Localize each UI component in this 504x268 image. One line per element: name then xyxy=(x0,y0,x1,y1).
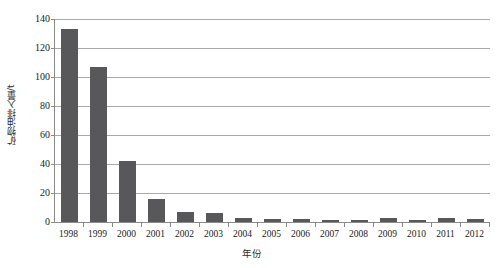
bar-slot xyxy=(84,19,113,222)
bar-slot xyxy=(403,19,432,222)
bar-chart-figure: 矿物油排入量/t 020406080100120140 199819992000… xyxy=(0,0,504,268)
bar xyxy=(264,219,281,222)
x-tick-mark xyxy=(286,223,287,227)
x-tick-mark xyxy=(83,223,84,227)
x-tick-mark xyxy=(199,223,200,227)
x-tick-mark xyxy=(344,223,345,227)
x-tick-mark xyxy=(373,223,374,227)
x-tick-label: 2004 xyxy=(229,228,257,240)
y-tick-label: 20 xyxy=(20,188,50,198)
bar-slot xyxy=(200,19,229,222)
x-tick-mark xyxy=(170,223,171,227)
x-tick-label: 1998 xyxy=(55,228,83,240)
x-tick-mark xyxy=(489,223,490,227)
bar xyxy=(380,218,397,222)
y-axis-tick-labels: 020406080100120140 xyxy=(18,0,50,268)
x-tick-mark xyxy=(402,223,403,227)
x-tick-mark xyxy=(112,223,113,227)
bar xyxy=(293,219,310,222)
bar xyxy=(235,218,252,222)
bar-slot xyxy=(113,19,142,222)
x-tick-label: 2003 xyxy=(200,228,228,240)
x-tick-mark xyxy=(460,223,461,227)
bar-slot xyxy=(345,19,374,222)
bar-slot xyxy=(316,19,345,222)
x-tick-label: 2000 xyxy=(113,228,141,240)
plot-area xyxy=(54,19,490,223)
y-tick-label: 140 xyxy=(20,14,50,24)
x-tick-label: 2010 xyxy=(403,228,431,240)
y-tick-label: 100 xyxy=(20,72,50,82)
bar xyxy=(322,220,339,222)
x-tick-mark xyxy=(315,223,316,227)
bar xyxy=(119,161,136,222)
bar xyxy=(438,218,455,222)
bar-slot xyxy=(55,19,84,222)
x-tick-label: 2009 xyxy=(374,228,402,240)
bar-slot xyxy=(229,19,258,222)
x-tick-mark xyxy=(257,223,258,227)
bar xyxy=(177,212,194,222)
x-tick-label: 2011 xyxy=(432,228,460,240)
x-tick-label: 2005 xyxy=(258,228,286,240)
bar-slot xyxy=(287,19,316,222)
bar-slot xyxy=(258,19,287,222)
x-axis-tick-labels: 1998199920002001200220032004200520062007… xyxy=(54,228,489,242)
bar xyxy=(467,219,484,222)
x-tick-label: 2002 xyxy=(171,228,199,240)
bar-slot xyxy=(142,19,171,222)
bar-slot xyxy=(171,19,200,222)
x-tick-mark xyxy=(141,223,142,227)
bar xyxy=(351,220,368,222)
y-tick-label: 120 xyxy=(20,43,50,53)
x-tick-mark xyxy=(228,223,229,227)
x-tick-label: 2012 xyxy=(461,228,489,240)
x-tick-label: 2006 xyxy=(287,228,315,240)
bar xyxy=(148,199,165,222)
bar-slot xyxy=(374,19,403,222)
y-tick-label: 40 xyxy=(20,159,50,169)
x-tick-label: 2001 xyxy=(142,228,170,240)
x-axis-title: 年份 xyxy=(0,246,504,260)
y-tick-label: 0 xyxy=(20,217,50,227)
x-tick-label: 1999 xyxy=(84,228,112,240)
bar-slot xyxy=(432,19,461,222)
bar xyxy=(409,220,426,222)
y-tick-label: 80 xyxy=(20,101,50,111)
bar-slot xyxy=(461,19,490,222)
y-tick-label: 60 xyxy=(20,130,50,140)
x-tick-mark xyxy=(431,223,432,227)
bar xyxy=(61,29,78,222)
bar xyxy=(90,67,107,222)
y-axis-title: 矿物油排入量/t xyxy=(4,60,18,170)
x-tick-label: 2008 xyxy=(345,228,373,240)
x-tick-label: 2007 xyxy=(316,228,344,240)
bar-series xyxy=(55,19,490,222)
bar xyxy=(206,213,223,222)
